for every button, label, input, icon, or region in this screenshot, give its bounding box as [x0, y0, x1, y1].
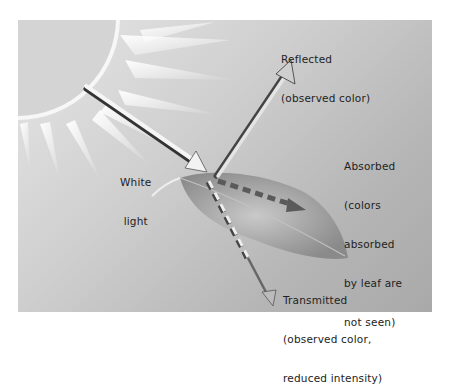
transmitted-label-line-1: Transmitted	[283, 294, 382, 307]
absorbed-label-line-2: (colors	[344, 199, 402, 212]
white-light-label-line-1: White	[120, 176, 152, 189]
absorbed-label-line-1: Absorbed	[344, 160, 402, 173]
white-light-label: White light	[120, 150, 152, 241]
absorbed-label-line-3: absorbed	[344, 238, 402, 251]
leaf-icon	[152, 173, 348, 259]
reflected-label-line-1: Reflected	[281, 53, 370, 66]
reflected-label: Reflected (observed color)	[281, 27, 370, 118]
transmitted-label: Transmitted (observed color, reduced int…	[283, 268, 382, 388]
reflected-label-line-2: (observed color)	[281, 92, 370, 105]
transmitted-label-line-3: reduced intensity)	[283, 372, 382, 385]
white-light-label-line-2: light	[120, 215, 152, 228]
transmitted-label-line-2: (observed color,	[283, 333, 382, 346]
